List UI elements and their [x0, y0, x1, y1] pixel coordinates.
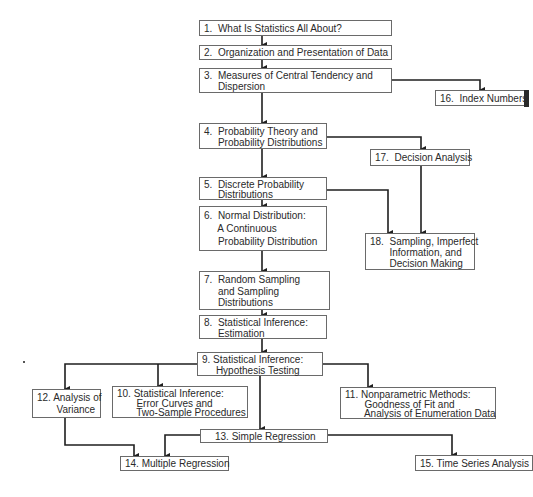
node-14-multiple-regression: 14. Multiple Regression [120, 456, 229, 471]
node-8-estimation: 8. Statistical Inference: Estimation [199, 315, 327, 339]
node-4-probability-theory: 4. Probability Theory and Probability Di… [199, 123, 327, 149]
node-3-central-tendency: 3. Measures of Central Tendency and Disp… [199, 68, 392, 93]
node-2-organization-presentation: 2. Organization and Presentation of Data [199, 45, 392, 60]
node-5-discrete-probability: 5. Discrete Probability Distributions [199, 177, 327, 200]
node-18-sampling-imperfect-information: 18. Sampling, Imperfect Information, and… [365, 233, 475, 270]
node-15-time-series-analysis: 15. Time Series Analysis [415, 455, 533, 471]
node-17-decision-analysis: 17. Decision Analysis [370, 149, 470, 166]
node-16-index-numbers: 16. Index Numbers [435, 90, 525, 106]
node-6-normal-distribution: 6. Normal Distribution: A Continuous Pro… [199, 206, 327, 251]
node-9-hypothesis-testing: 9. Statistical Inference: Hypothesis Tes… [197, 352, 323, 376]
stray-mark [23, 361, 25, 363]
node-7-random-sampling: 7. Random Sampling and Sampling Distribu… [199, 271, 330, 310]
node-10-error-curves: 10. Statistical Inference: Error Curves … [112, 386, 248, 418]
node-1-what-is-statistics: 1. What Is Statistics All About? [199, 20, 392, 36]
node-11-nonparametric-methods: 11. Nonparametric Methods: Goodness of F… [340, 387, 496, 419]
node-12-analysis-of-variance: 12. Analysis of Variance [32, 389, 101, 418]
node-13-simple-regression: 13. Simple Regression [200, 429, 328, 443]
page-edge-mark [524, 90, 529, 107]
